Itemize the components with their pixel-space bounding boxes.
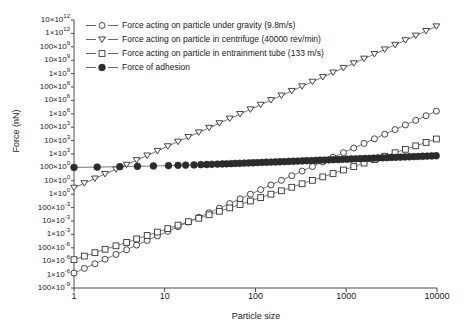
- legend-marker-filled-circle-icon: [85, 61, 119, 74]
- data-point-marker: [175, 222, 181, 228]
- data-point-marker: [71, 164, 78, 171]
- legend-label: Force acting on particle in centrifuge (…: [122, 33, 321, 46]
- data-point-marker: [268, 182, 274, 188]
- legend-marker-open-circle-icon: [85, 19, 119, 32]
- data-point-marker: [278, 93, 285, 98]
- data-point-marker: [341, 167, 347, 173]
- data-point-marker: [289, 184, 295, 190]
- data-point-marker: [155, 229, 161, 235]
- data-point-marker: [154, 148, 161, 153]
- data-point-marker: [330, 70, 337, 75]
- data-point-marker: [124, 240, 130, 246]
- data-point-marker: [164, 144, 171, 149]
- data-point-marker: [196, 215, 202, 221]
- data-point-marker: [268, 191, 274, 197]
- legend-label: Force acting on particle in entrainment …: [122, 47, 324, 60]
- data-point-marker: [99, 51, 105, 57]
- data-point-marker: [402, 38, 409, 43]
- data-point-marker: [392, 42, 399, 47]
- data-point-marker: [113, 243, 119, 249]
- data-point-marker: [182, 162, 189, 169]
- data-point-marker: [237, 111, 244, 116]
- series-adhesion: [71, 152, 440, 170]
- data-point-marker: [227, 205, 233, 211]
- data-point-marker: [216, 121, 223, 126]
- data-point-marker: [403, 146, 409, 152]
- legend-item[interactable]: Force acting on particle under gravity (…: [85, 19, 324, 32]
- data-point-marker: [433, 24, 440, 29]
- data-point-marker: [340, 65, 347, 70]
- data-point-marker: [81, 253, 87, 259]
- data-point-marker: [423, 113, 429, 119]
- data-point-marker: [175, 162, 182, 169]
- data-point-marker: [278, 177, 284, 183]
- data-point-marker: [99, 64, 106, 71]
- data-point-marker: [165, 226, 171, 232]
- legend-label: Force of adhesion: [122, 61, 190, 74]
- data-point-marker: [81, 181, 88, 186]
- data-point-marker: [134, 236, 140, 242]
- data-point-marker: [351, 164, 357, 170]
- series-gravity: [71, 108, 439, 276]
- data-point-marker: [102, 246, 108, 252]
- data-point-marker: [350, 61, 357, 66]
- legend-marker-open-square-icon: [85, 47, 119, 60]
- chart-figure: Force (nN) 10×10121×1012100×10910×1091×1…: [0, 0, 467, 332]
- data-point-marker: [99, 23, 105, 29]
- data-point-marker: [433, 108, 439, 114]
- data-point-marker: [116, 163, 123, 170]
- legend-item[interactable]: Force acting on particle in centrifuge (…: [85, 33, 324, 46]
- data-point-marker: [310, 177, 316, 183]
- data-point-marker: [340, 150, 346, 156]
- data-point-marker: [134, 163, 141, 170]
- data-point-marker: [361, 140, 367, 146]
- data-point-marker: [144, 233, 150, 239]
- data-point-marker: [71, 257, 77, 263]
- data-point-marker: [361, 56, 368, 61]
- data-point-marker: [434, 136, 440, 142]
- data-point-marker: [248, 198, 254, 204]
- data-point-marker: [237, 202, 243, 208]
- legend-item[interactable]: Force acting on particle in entrainment …: [85, 47, 324, 60]
- data-point-marker: [102, 256, 108, 262]
- data-point-marker: [412, 33, 419, 38]
- data-point-marker: [258, 187, 264, 193]
- data-point-marker: [413, 117, 419, 123]
- data-point-marker: [206, 125, 213, 130]
- data-point-marker: [330, 171, 336, 177]
- data-point-marker: [185, 219, 191, 225]
- data-point-marker: [423, 28, 430, 33]
- data-point-marker: [99, 37, 106, 42]
- data-point-marker: [371, 136, 377, 142]
- data-point-marker: [92, 250, 98, 256]
- data-point-marker: [423, 140, 429, 146]
- chart-legend: Force acting on particle under gravity (…: [85, 19, 324, 74]
- data-point-marker: [165, 162, 172, 169]
- data-point-marker: [150, 163, 157, 170]
- data-point-marker: [257, 102, 264, 107]
- data-point-marker: [237, 196, 243, 202]
- data-point-marker: [216, 208, 222, 214]
- data-point-marker: [320, 174, 326, 180]
- legend-item[interactable]: Force of adhesion: [85, 61, 324, 74]
- data-point-marker: [413, 143, 419, 149]
- data-point-marker: [319, 75, 326, 80]
- data-point-marker: [134, 242, 140, 248]
- data-point-marker: [268, 98, 275, 103]
- data-point-marker: [206, 212, 212, 218]
- data-point-marker: [113, 251, 119, 257]
- data-point-marker: [247, 191, 253, 197]
- data-point-marker: [133, 158, 140, 163]
- data-point-marker: [92, 261, 98, 267]
- data-point-marker: [381, 47, 388, 52]
- data-point-marker: [382, 131, 388, 137]
- data-point-marker: [191, 161, 198, 168]
- data-point-marker: [309, 163, 315, 169]
- legend-marker-open-triangle-down-icon: [85, 33, 119, 46]
- data-point-marker: [351, 145, 357, 151]
- data-point-marker: [392, 127, 398, 133]
- data-point-marker: [102, 171, 109, 176]
- data-point-marker: [81, 265, 87, 271]
- data-point-marker: [289, 173, 295, 179]
- data-point-marker: [371, 52, 378, 57]
